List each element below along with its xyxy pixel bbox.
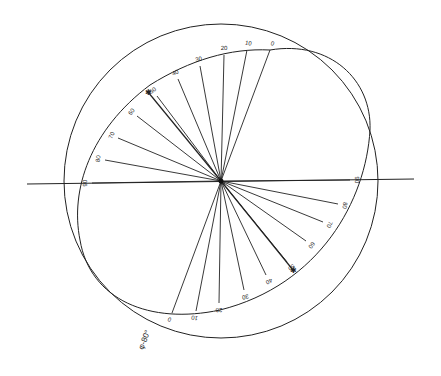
lower-ray-label: 60: [307, 241, 316, 250]
lower-ray-10: [196, 181, 221, 311]
lower-ray-20: [219, 181, 221, 303]
lower-ray-90: [221, 180, 350, 181]
lower-ray-label: 40: [264, 277, 273, 286]
upper-ray-label: 0: [270, 40, 276, 47]
lower-ray-0: [172, 181, 221, 313]
upper-ray-label: 20: [221, 45, 228, 51]
star-marker-icon: ✱: [290, 266, 297, 275]
marker-ray: [148, 92, 221, 181]
upper-ray-80: [105, 160, 221, 181]
lower-ray-label: 70: [325, 220, 333, 229]
upper-ray-label: 60: [127, 107, 136, 116]
upper-ray-20: [221, 55, 224, 181]
upper-ray-group: 0102030405060708090: [82, 40, 276, 187]
upper-ray-label: 90: [82, 179, 88, 186]
upper-ray-label: 80: [95, 154, 102, 162]
lower-ray-80: [221, 181, 338, 204]
lower-ray-30: [221, 181, 244, 290]
upper-ray-label: 10: [244, 40, 252, 47]
lower-ray-label: 20: [215, 307, 222, 313]
upper-ray-label: 30: [195, 55, 203, 62]
upper-ray-30: [200, 66, 221, 181]
lower-ray-label: 80: [341, 201, 348, 209]
ellipse-label: φ-80°: [137, 329, 153, 351]
lower-ray-label: 0: [166, 316, 172, 323]
upper-ray-0: [221, 50, 270, 181]
lower-ray-label: 30: [241, 293, 249, 300]
lower-ray-label: 90: [354, 177, 360, 184]
upper-ray-10: [221, 50, 247, 181]
lower-ray-70: [221, 181, 323, 222]
lower-ray-label: 10: [190, 314, 198, 321]
lower-ray-60: [221, 181, 306, 241]
upper-ray-label: 70: [107, 130, 115, 139]
lower-ray-group: 9080706050403020100: [166, 177, 360, 323]
polar-diagram: 0102030405060708090 9080706050403020100 …: [0, 0, 441, 376]
star-marker-icon: ✱: [145, 88, 152, 97]
center-point: [219, 179, 224, 184]
